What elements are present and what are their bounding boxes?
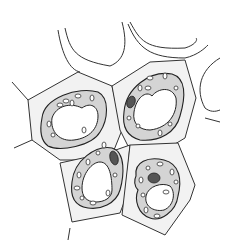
plant-cell-diagram [0, 0, 229, 251]
cell-upper-right [112, 60, 196, 150]
cell-lower-right [122, 143, 195, 235]
cell-upper-left [28, 72, 122, 160]
